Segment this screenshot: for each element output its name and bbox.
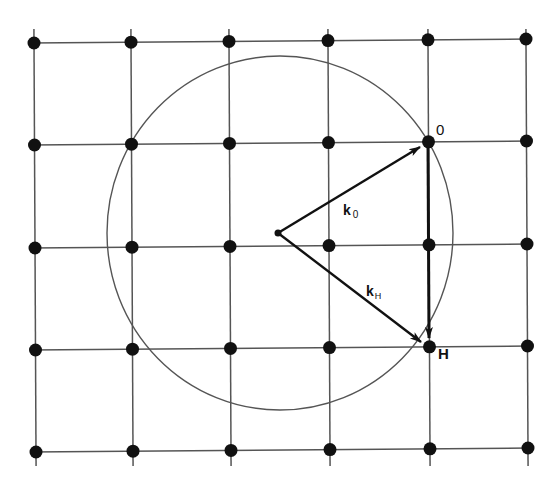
kH-vector-arrow (278, 233, 421, 342)
ewald-center-point (275, 230, 282, 237)
lattice-point (520, 134, 533, 147)
lattice-point (225, 444, 238, 457)
lattice-point (521, 237, 534, 250)
k0-label: k0 (343, 202, 359, 220)
lattice-point (125, 36, 138, 49)
reflection-point (423, 340, 436, 353)
lattice-point (125, 138, 138, 151)
origin-point (422, 135, 435, 148)
lattice-point (28, 138, 41, 151)
lattice-point (223, 137, 236, 150)
lattice-point (322, 34, 335, 47)
lattice-point (127, 445, 140, 458)
lattice-point (30, 445, 43, 458)
lattice-point (323, 341, 336, 354)
lattice-row-line (30, 141, 530, 145)
origin-label: 0 (436, 121, 444, 138)
lattice-point (223, 35, 236, 48)
lattice-point (29, 343, 42, 356)
lattice-row-line (30, 39, 530, 43)
lattice-point (126, 241, 139, 254)
lattice-point (520, 33, 533, 46)
reflection-label: H (438, 345, 449, 362)
lattice-point (323, 239, 336, 252)
lattice-point (29, 241, 42, 254)
lattice-point (422, 33, 435, 46)
k0-vector-arrow (278, 147, 420, 233)
ewald-diagram: 0 H k0 kH (0, 0, 556, 481)
lattice-point (522, 441, 535, 454)
lattice-point (126, 343, 139, 356)
k0-label-main: k (343, 202, 351, 218)
lattice-point (424, 442, 437, 455)
lattice-point (28, 37, 41, 50)
k0-label-sub: 0 (353, 209, 359, 220)
lattice-point (324, 443, 337, 456)
lattice-row-line (30, 448, 530, 452)
lattice-point (423, 238, 436, 251)
wave-vectors (275, 143, 430, 342)
lattice-row-line (30, 346, 530, 350)
kH-label: kH (366, 283, 381, 301)
lattice-point (521, 339, 534, 352)
lattice-grid-lines (30, 29, 530, 466)
lattice-point (224, 342, 237, 355)
lattice-point (224, 240, 237, 253)
kH-label-sub: H (375, 291, 382, 301)
kH-label-main: k (366, 283, 374, 299)
lattice-row-line (30, 244, 530, 248)
lattice-point (322, 136, 335, 149)
